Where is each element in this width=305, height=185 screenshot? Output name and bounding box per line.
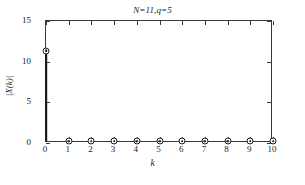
y-axis-tick-label: 5 [7, 96, 31, 106]
x-axis-tick-label: 3 [102, 144, 124, 154]
plot-area [45, 20, 272, 142]
x-axis-tick-label: 4 [125, 144, 147, 154]
x-axis-tick [250, 21, 251, 25]
y-axis-tick-label: 15 [7, 15, 31, 25]
x-axis-tick [182, 21, 183, 25]
x-axis-tick [228, 21, 229, 25]
x-axis-tick-label: 1 [57, 144, 79, 154]
x-axis-tick-label: 0 [34, 144, 56, 154]
x-axis-tick-label: 9 [238, 144, 260, 154]
y-axis-tick [267, 21, 271, 22]
x-axis-tick-label: 6 [170, 144, 192, 154]
x-axis-title: k [0, 158, 305, 168]
x-axis-tick-label: 5 [148, 144, 170, 154]
y-axis-tick [267, 102, 271, 103]
x-axis-tick [160, 21, 161, 25]
x-axis-tick-label: 10 [261, 144, 283, 154]
x-axis-tick-label: 2 [79, 144, 101, 154]
x-axis-tick [205, 21, 206, 25]
x-axis-tick-label: 7 [193, 144, 215, 154]
chart-figure: N=11,q=5 k |X(k)| 012345678910051015 [0, 0, 305, 185]
y-axis-tick [267, 62, 271, 63]
stem-line [45, 51, 47, 141]
y-axis-tick [46, 21, 50, 22]
x-axis-tick [273, 21, 274, 25]
x-axis-tick [91, 21, 92, 25]
y-axis-tick-label: 0 [7, 137, 31, 147]
chart-title: N=11,q=5 [0, 5, 305, 15]
y-axis-tick-label: 10 [7, 56, 31, 66]
data-point-marker [43, 47, 50, 54]
x-axis-tick-label: 8 [216, 144, 238, 154]
x-axis-tick [69, 21, 70, 25]
x-axis-tick [137, 21, 138, 25]
x-axis-tick [114, 21, 115, 25]
